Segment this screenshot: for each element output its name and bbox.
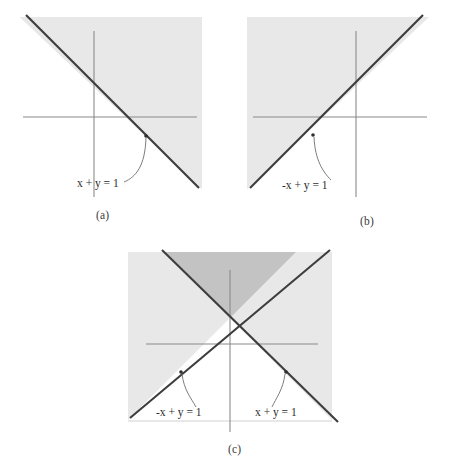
line-equation-label-b: -x + y = 1	[282, 179, 328, 192]
leader-dot-left-c	[179, 370, 183, 374]
panel-caption-a: (a)	[96, 209, 109, 221]
panel-a-plot: x + y = 1	[0, 0, 220, 205]
panel-caption-c: (c)	[228, 443, 241, 455]
leader-line-b	[314, 137, 331, 180]
leader-line-a	[124, 138, 146, 182]
panel-c: -x + y = 1 x + y = 1 (c)	[100, 230, 390, 466]
panel-c-plot: -x + y = 1 x + y = 1	[100, 230, 390, 466]
line-equation-label-left-c: -x + y = 1	[156, 406, 202, 419]
leader-dot-a	[144, 134, 148, 138]
line-equation-label-right-c: x + y = 1	[255, 406, 297, 419]
panel-caption-b: (b)	[360, 215, 374, 227]
leader-dot-right-c	[284, 370, 288, 374]
leader-dot-b	[311, 133, 315, 137]
figure-root: x + y = 1 (a) -x + y = 1	[0, 0, 465, 466]
panel-a: x + y = 1 (a)	[0, 0, 220, 205]
line-equation-label-a: x + y = 1	[77, 177, 119, 190]
panel-b: -x + y = 1 (b)	[225, 0, 450, 205]
panel-b-plot: -x + y = 1	[225, 0, 450, 205]
